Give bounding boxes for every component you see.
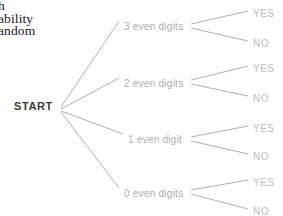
edge-start-to-3-even	[61, 21, 119, 107]
leaf-1-even-no: NO	[253, 152, 269, 162]
leaf-0-even-no: NO	[253, 207, 269, 216]
edge-2-even-to-no	[191, 84, 248, 96]
leaf-0-even-yes: YES	[253, 178, 275, 188]
leaf-2-even-yes: YES	[253, 64, 275, 74]
edge-1-even-to-yes	[191, 126, 248, 137]
node-1-even-digit: 1 even digit	[128, 135, 182, 145]
edge-0-even-to-yes	[191, 180, 248, 190]
leaf-1-even-yes: YES	[253, 124, 275, 134]
edge-3-even-to-no	[191, 28, 248, 41]
node-0-even-digits: 0 even digits	[124, 189, 183, 199]
edge-2-even-to-yes	[191, 66, 248, 80]
leaf-2-even-no: NO	[253, 94, 269, 104]
edge-1-even-to-no	[191, 141, 248, 154]
edge-0-even-to-no	[191, 194, 248, 209]
edge-start-to-1-even	[61, 111, 123, 134]
diagram-canvas: h ability andom START 3 even digit	[0, 0, 283, 216]
edge-3-even-to-yes	[191, 11, 248, 24]
node-2-even-digits: 2 even digits	[124, 79, 183, 89]
edge-start-to-0-even	[61, 112, 119, 188]
leaf-3-even-yes: YES	[253, 9, 275, 19]
node-start: START	[14, 101, 53, 112]
node-3-even-digits: 3 even digits	[124, 22, 183, 32]
leaf-3-even-no: NO	[253, 39, 269, 49]
